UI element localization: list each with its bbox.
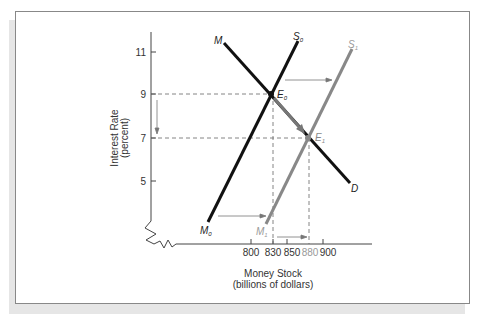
x-axis-title-line1: Money Stock (244, 268, 303, 279)
label-D: D (351, 183, 358, 194)
equilibrium-E1-dot (305, 135, 311, 141)
x-tick-880: 880 (302, 247, 319, 258)
supply-curve-S0 (208, 41, 298, 222)
x-tick-830: 830 (265, 247, 282, 258)
label-S0: S0 (293, 31, 304, 43)
y-axis-title-line2: (percent) (119, 118, 130, 158)
chart-svg: 11 9 7 5 800 830 850 880 900 Money Stock… (0, 0, 482, 320)
x-tick-850: 850 (284, 247, 301, 258)
y-tick-9: 9 (140, 89, 146, 100)
x-tick-900: 900 (320, 247, 337, 258)
y-ticks (151, 52, 156, 181)
label-M0: M0 (200, 225, 212, 237)
y-tick-7: 7 (140, 133, 146, 144)
label-M: M (214, 35, 223, 46)
label-E0: E0 (277, 89, 288, 101)
equilibrium-E0-dot (268, 91, 274, 97)
guide-lines (151, 94, 309, 244)
label-E1: E1 (315, 132, 325, 144)
x-tick-labels: 800 830 850 880 900 (243, 247, 337, 258)
demand-movement-segment (274, 98, 300, 128)
label-M1: M1 (256, 226, 268, 238)
x-ticks (251, 239, 323, 244)
y-tick-labels: 11 9 7 5 (136, 47, 147, 187)
x-tick-800: 800 (243, 247, 260, 258)
x-axis-title-line2: (billions of dollars) (233, 279, 314, 290)
label-S1: S1 (348, 39, 358, 51)
shift-arrows (155, 78, 332, 239)
y-tick-5: 5 (140, 176, 146, 187)
y-tick-11: 11 (136, 47, 147, 58)
